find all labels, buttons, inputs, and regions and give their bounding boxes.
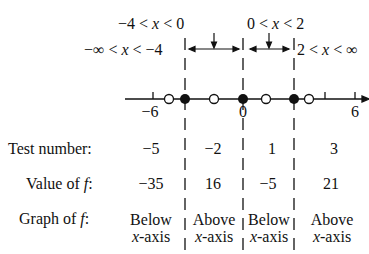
graph-desc-4: Above x-axis <box>311 211 354 245</box>
tick-label-neg6: −6 <box>141 104 158 120</box>
zero-neg4 <box>180 94 190 104</box>
graph-desc-3: Below x-axis <box>248 211 290 245</box>
graph-desc-2: Above x-axis <box>193 211 236 245</box>
test-point-3 <box>305 95 314 104</box>
value-2: 16 <box>205 176 221 192</box>
test-point-neg2 <box>210 95 219 104</box>
test-point-1 <box>262 95 271 104</box>
interval-label-3: 0 < x < 2 <box>247 16 304 32</box>
test-point-neg5 <box>165 95 174 104</box>
row-label-test: Test number: <box>8 141 92 157</box>
tick-label-0: 0 <box>239 104 247 120</box>
zero-2 <box>289 94 299 104</box>
test-number-1: −5 <box>142 141 159 157</box>
interval-label-2: −4 < x < 0 <box>118 16 184 32</box>
tick-label-6: 6 <box>351 104 359 120</box>
value-1: −35 <box>138 176 163 192</box>
test-number-2: −2 <box>204 141 221 157</box>
test-number-3: 1 <box>268 141 276 157</box>
row-label-graph: Graph of f: <box>19 211 89 227</box>
interval-label-4: 2 < x < ∞ <box>297 42 358 58</box>
interval-label-1: −∞ < x < −4 <box>84 42 163 58</box>
value-4: 21 <box>323 176 339 192</box>
value-3: −5 <box>259 176 276 192</box>
graph-desc-1: Below x-axis <box>130 211 172 245</box>
test-number-4: 3 <box>330 141 338 157</box>
row-label-value: Value of f: <box>26 176 93 192</box>
